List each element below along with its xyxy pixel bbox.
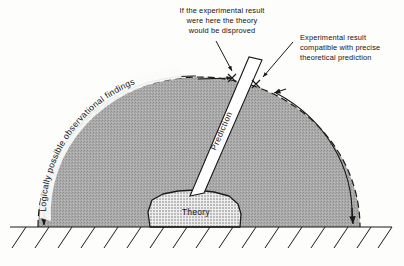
annotation-disproved: If the experimental result were here the… (180, 6, 265, 35)
compatible-line-2: compatible with precise (300, 43, 380, 52)
leader-line-compatible (263, 42, 293, 77)
disproved-line-3: would be disproved (188, 26, 255, 35)
leader-line-disproved (216, 41, 232, 71)
disproved-line-1: If the experimental result (180, 6, 265, 15)
theory-label: Theory (182, 208, 210, 217)
compatible-line-3: theoretical prediction (300, 53, 372, 62)
ground (10, 227, 392, 248)
annotation-compatible: Experimental result compatible with prec… (300, 33, 380, 62)
compatible-line-1: Experimental result (300, 33, 366, 42)
diagram-svg: Logically possible observational finding… (0, 0, 404, 266)
diagram-canvas: Logically possible observational finding… (0, 0, 404, 266)
ground-hatching (12, 227, 392, 248)
span-arrow-right-upper (274, 89, 286, 93)
disproved-line-2: were here the theory (186, 16, 258, 25)
